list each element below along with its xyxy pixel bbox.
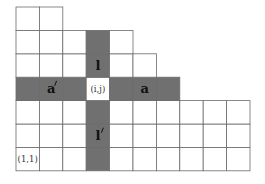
cell-r2-c7 <box>156 124 179 147</box>
cell-r3-c9 <box>203 101 226 124</box>
label-coarm: a <box>47 81 56 96</box>
cell-r3-c8 <box>180 101 203 124</box>
label-origin: (1,1) <box>18 154 38 164</box>
cell-arm-r4-c5 <box>110 77 133 100</box>
cell-coleg-r3-c4 <box>86 101 109 124</box>
cell-r5-c6 <box>133 54 156 77</box>
cell-r3-c7 <box>156 101 179 124</box>
cell-r1-c7 <box>156 147 179 170</box>
cell-r3-c10 <box>227 101 250 124</box>
cell-r3-c2 <box>39 101 62 124</box>
cell-coleg-r1-c4 <box>86 147 109 170</box>
cell-r5-c2 <box>39 54 62 77</box>
cell-r1-c8 <box>180 147 203 170</box>
cell-r7-c2 <box>39 7 62 30</box>
cell-r2-c2 <box>39 124 62 147</box>
cell-r7-c1 <box>16 7 39 30</box>
cell-r1-c2 <box>39 147 62 170</box>
cell-r2-c6 <box>133 124 156 147</box>
cell-r1-c9 <box>203 147 226 170</box>
cell-r5-c5 <box>110 54 133 77</box>
cell-r2-c5 <box>110 124 133 147</box>
label-cell-ij: (i,j) <box>91 84 106 94</box>
cell-r6-c5 <box>110 30 133 53</box>
cell-r1-c10 <box>227 147 250 170</box>
cell-r1-c3 <box>63 147 86 170</box>
label-leg: l <box>95 58 100 73</box>
cell-r3-c6 <box>133 101 156 124</box>
label-coleg: l <box>95 128 100 143</box>
cell-r6-c3 <box>63 30 86 53</box>
cell-r6-c1 <box>16 30 39 53</box>
cell-coarm-r4-c3 <box>63 77 86 100</box>
cell-r2-c3 <box>63 124 86 147</box>
cell-r3-c5 <box>110 101 133 124</box>
cell-arm-r4-c7 <box>156 77 179 100</box>
cell-r5-c3 <box>63 54 86 77</box>
cell-r2-c9 <box>203 124 226 147</box>
cell-r3-c3 <box>63 101 86 124</box>
label-arm: a <box>140 81 149 96</box>
cell-coarm-r4-c1 <box>16 77 39 100</box>
cell-r2-c1 <box>16 124 39 147</box>
cell-r6-c2 <box>39 30 62 53</box>
cell-r3-c1 <box>16 101 39 124</box>
young-diagram: aall(i,j)(1,1) <box>0 0 265 184</box>
cell-r2-c8 <box>180 124 203 147</box>
cell-leg-r6-c4 <box>86 30 109 53</box>
cell-r1-c6 <box>133 147 156 170</box>
cell-r5-c1 <box>16 54 39 77</box>
cell-r1-c5 <box>110 147 133 170</box>
cell-r2-c10 <box>227 124 250 147</box>
